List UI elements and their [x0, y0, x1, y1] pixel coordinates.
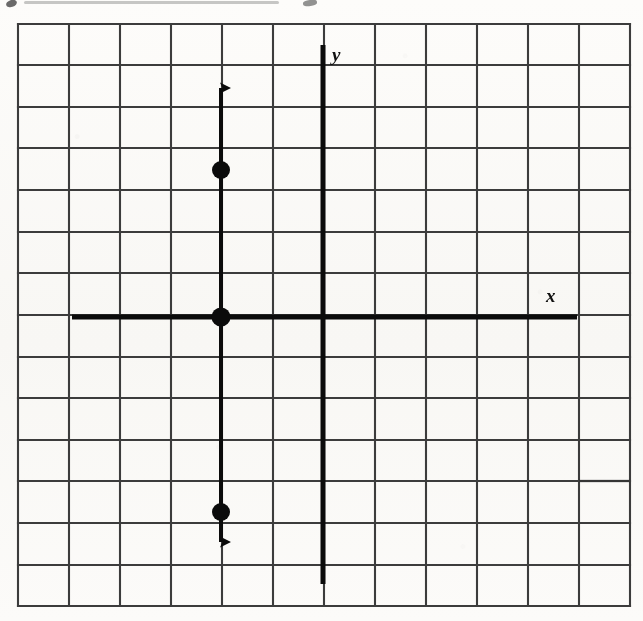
coordinate-plane: [0, 0, 643, 621]
x-axis-label: x: [546, 286, 556, 305]
data-point-upper: [212, 161, 230, 179]
data-point-lower: [212, 503, 230, 521]
graph-figure: y x: [0, 0, 643, 621]
data-point-origin-level: [212, 308, 231, 327]
y-axis-label: y: [332, 45, 340, 64]
